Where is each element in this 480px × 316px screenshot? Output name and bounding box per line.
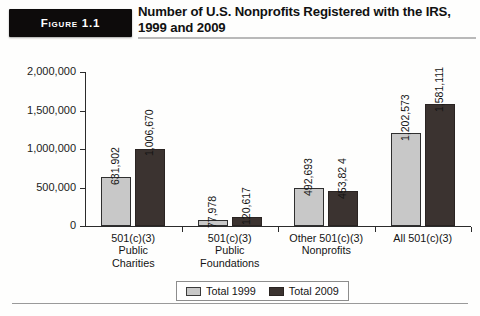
y-axis-tick-mark	[80, 188, 85, 189]
bar-value-label: 492,693	[302, 158, 314, 196]
bar-value-label: 1,202,573	[399, 95, 411, 142]
x-axis-group-label: Other 501(c)(3)Nonprofits	[278, 232, 375, 257]
legend-label: Total 2009	[289, 285, 339, 297]
x-axis-group-label-line: All 501(c)(3)	[375, 232, 472, 244]
bar-1999	[391, 133, 421, 226]
y-axis-line	[85, 72, 86, 227]
bar-value-label: 453,82 4	[336, 158, 348, 199]
x-axis-tick-mark	[375, 227, 376, 232]
bar-2009	[135, 149, 165, 227]
bar-value-label: 1,006,670	[143, 110, 155, 157]
bar-value-label: 1,581,111	[433, 67, 445, 112]
y-axis-tick-label: 500,000	[14, 181, 76, 193]
legend-swatch-2009	[269, 287, 284, 296]
bar-value-label: 120,617	[240, 187, 252, 225]
bar-2009	[425, 104, 455, 226]
x-axis-group-label: All 501(c)(3)	[375, 232, 472, 244]
figure-header: Figure 1.1 Number of U.S. Nonprofits Reg…	[0, 0, 480, 52]
bar-chart: 2,000,0001,500,0001,000,000500,0000 631,…	[0, 52, 480, 284]
y-axis-tick-label: 2,000,000	[14, 65, 76, 77]
legend-item: Total 2009	[269, 285, 339, 297]
bar-value-label: 631,902	[109, 147, 121, 185]
x-axis-group-label-line: Foundations	[182, 257, 279, 269]
figure-number-label: Figure 1.1	[9, 9, 132, 37]
y-axis-tick-label: 1,500,000	[14, 104, 76, 116]
legend-swatch-1999	[186, 287, 201, 296]
x-axis-tick-mark	[471, 227, 472, 232]
legend-item: Total 1999	[186, 285, 256, 297]
x-axis-group-label-line: 501(c)(3)	[182, 232, 279, 244]
x-axis-tick-mark	[278, 227, 279, 232]
footer-divider	[12, 303, 468, 304]
y-axis-tick-mark	[80, 111, 85, 112]
x-axis-group-label-line: Charities	[85, 257, 182, 269]
x-axis-group-label-line: Nonprofits	[278, 244, 375, 256]
x-axis-tick-mark	[182, 227, 183, 232]
y-axis-tick-mark	[80, 226, 85, 227]
figure-number-badge: Figure 1.1	[9, 9, 132, 37]
x-axis-group-label-line: Public	[182, 244, 279, 256]
bar-value-label: 77,978	[206, 196, 218, 228]
figure-title: Number of U.S. Nonprofits Registered wit…	[138, 4, 478, 36]
y-axis-tick-mark	[80, 149, 85, 150]
chart-legend: Total 1999Total 2009	[176, 281, 349, 301]
x-axis-group-label: 501(c)(3)PublicFoundations	[182, 232, 279, 269]
x-axis-group-label-line: Public	[85, 244, 182, 256]
x-axis-group-label-line: Other 501(c)(3)	[278, 232, 375, 244]
legend-label: Total 1999	[206, 285, 256, 297]
y-axis-tick-mark	[80, 72, 85, 73]
y-axis-tick-label: 0	[14, 219, 76, 231]
y-axis-tick-label: 1,000,000	[14, 142, 76, 154]
x-axis-group-label-line: 501(c)(3)	[85, 232, 182, 244]
x-axis-group-label: 501(c)(3)PublicCharities	[85, 232, 182, 269]
header-divider	[138, 37, 476, 39]
